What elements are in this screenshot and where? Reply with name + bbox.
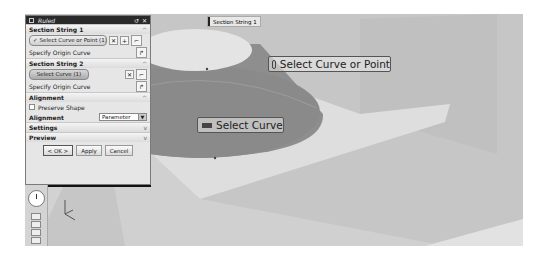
origin-curve-label: Specify Origin Curve xyxy=(29,83,90,90)
chevron-up-icon: ^ xyxy=(142,60,147,67)
preview-header[interactable]: Preview v xyxy=(26,132,150,142)
select-curve-or-point-button[interactable]: ✓ Select Curve or Point (1) xyxy=(29,35,107,46)
toolbar-button-icon[interactable] xyxy=(31,221,41,228)
section-title: Section String 2 xyxy=(29,60,83,67)
origin-curve-icon[interactable]: ↱ xyxy=(136,81,147,92)
toolbar-button-icon[interactable] xyxy=(31,213,41,220)
resource-bar xyxy=(25,185,48,246)
section-title: Section String 1 xyxy=(29,26,83,33)
section-title: Preview xyxy=(29,134,56,141)
toolbar-button-icon[interactable] xyxy=(31,237,41,244)
remove-icon[interactable]: ✕ xyxy=(109,36,118,45)
preserve-shape-checkbox[interactable] xyxy=(29,104,35,110)
remove-icon[interactable]: ✕ xyxy=(125,70,134,79)
check-icon: ✓ xyxy=(33,37,38,43)
alignment-header[interactable]: Alignment ^ xyxy=(26,92,150,102)
chevron-up-icon: ^ xyxy=(142,26,147,33)
chevron-down-icon: v xyxy=(143,134,147,141)
origin-curve-icon[interactable]: ↱ xyxy=(136,47,147,58)
tooltip-select-curve-or-point: Select Curve or Point xyxy=(268,56,391,72)
curve-cursor-icon xyxy=(202,123,212,128)
section-1-origin-row: Specify Origin Curve ↱ xyxy=(26,46,150,58)
tag-marker xyxy=(208,17,210,26)
tooltip-text: Select Curve xyxy=(216,119,283,131)
chevron-down-icon: v xyxy=(143,124,147,131)
history-clock-icon[interactable] xyxy=(28,190,45,207)
selection-tag: Section String 1 xyxy=(207,16,261,27)
section-2-origin-row: Specify Origin Curve ↱ xyxy=(26,80,150,92)
alignment-dropdown[interactable]: Parameter ▼ xyxy=(99,113,147,121)
section-1-select-row: ✓ Select Curve or Point (1) ✕ + ⌐ xyxy=(26,34,150,46)
point-cursor-icon xyxy=(272,60,276,69)
curve-rule-icon[interactable]: ⌐ xyxy=(136,69,147,80)
alignment-label: Alignment xyxy=(29,114,64,121)
toolbar-button-icon[interactable] xyxy=(31,229,41,236)
ruled-dialog: Ruled ↺ ✕ Section String 1 ^ ✓ Select Cu… xyxy=(25,15,151,185)
section-2-select-row: Select Curve (1) ✕ ⌐ xyxy=(26,68,150,80)
close-icon[interactable]: ✕ xyxy=(142,17,147,24)
section-title: Settings xyxy=(29,124,57,131)
preserve-shape-row: Preserve Shape xyxy=(26,102,150,112)
section-string-2-header[interactable]: Section String 2 ^ xyxy=(26,58,150,68)
dialog-title: Ruled xyxy=(38,17,131,24)
alignment-row: Alignment Parameter ▼ xyxy=(26,112,150,122)
section-title: Alignment xyxy=(29,94,64,101)
reset-icon[interactable]: ↺ xyxy=(134,17,139,24)
ok-button[interactable]: < OK > xyxy=(43,145,74,156)
dialog-icon xyxy=(29,18,34,23)
tooltip-select-curve: Select Curve xyxy=(197,117,284,133)
dialog-buttons: < OK > Apply Cancel xyxy=(26,142,150,156)
dropdown-arrow-icon: ▼ xyxy=(138,114,146,120)
button-label: Select Curve or Point (1) xyxy=(40,37,107,43)
tooltip-text: Select Curve or Point xyxy=(280,58,390,70)
settings-header[interactable]: Settings v xyxy=(26,122,150,132)
selection-tag-text: Section String 1 xyxy=(213,19,257,25)
alignment-value: Parameter xyxy=(102,114,131,120)
cancel-button[interactable]: Cancel xyxy=(105,145,134,156)
curve-rule-icon[interactable]: ⌐ xyxy=(131,35,142,46)
dialog-titlebar[interactable]: Ruled ↺ ✕ xyxy=(26,16,150,24)
origin-curve-label: Specify Origin Curve xyxy=(29,49,90,56)
apply-button[interactable]: Apply xyxy=(76,145,102,156)
section-string-1-header[interactable]: Section String 1 ^ xyxy=(26,24,150,34)
button-label: Select Curve (1) xyxy=(37,71,81,77)
add-icon[interactable]: + xyxy=(120,36,129,45)
preserve-shape-label: Preserve Shape xyxy=(38,104,85,111)
select-curve-button[interactable]: Select Curve (1) xyxy=(29,69,89,80)
chevron-up-icon: ^ xyxy=(142,94,147,101)
